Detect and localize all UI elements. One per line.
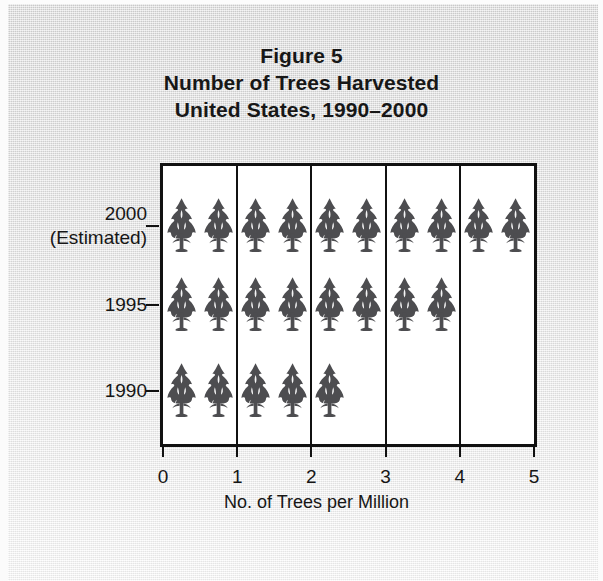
chart-title-line-2: Number of Trees Harvested	[0, 69, 603, 96]
y-axis-category-name: 1990	[0, 379, 147, 403]
x-axis-tick-label-3: 3	[366, 466, 406, 488]
plot-area	[160, 163, 537, 447]
figure-page: Figure 5 Number of Trees Harvested Unite…	[0, 0, 603, 581]
tree-icon	[163, 276, 200, 334]
tree-icon	[460, 197, 497, 255]
x-axis-tick-label-1: 1	[217, 466, 257, 488]
x-axis-tick-5	[533, 446, 535, 457]
y-axis-tick-label-2000: 2000(Estimated)	[0, 202, 147, 250]
x-axis-tick-label-2: 2	[291, 466, 331, 488]
y-axis-category-name: 1995	[0, 293, 147, 317]
y-axis-tick-label-1990: 1990	[0, 379, 147, 403]
x-axis-tick-4	[459, 446, 461, 457]
y-axis-tick-1995	[146, 304, 159, 306]
x-axis-tick-label-4: 4	[440, 466, 480, 488]
tree-icon	[423, 197, 460, 255]
tree-icon	[386, 197, 423, 255]
tree-icon	[163, 362, 200, 420]
tree-icon	[200, 276, 237, 334]
pictogram-row	[163, 195, 534, 257]
tree-icon	[200, 197, 237, 255]
tree-icon	[237, 197, 274, 255]
tree-icon	[163, 197, 200, 255]
scan-margin-top	[0, 0, 603, 4]
x-axis-tick-label-5: 5	[514, 466, 554, 488]
x-axis-tick-0	[162, 446, 164, 457]
x-axis-tick-1	[236, 446, 238, 457]
y-axis-tick-2000	[146, 225, 159, 227]
y-axis-category-name: 2000	[0, 202, 147, 226]
y-axis-tick-label-1995: 1995	[0, 293, 147, 317]
tree-icon	[348, 276, 385, 334]
tree-icon	[497, 197, 534, 255]
pictogram-row	[163, 360, 534, 422]
chart-title: Figure 5 Number of Trees Harvested Unite…	[0, 42, 603, 123]
tree-icon	[274, 276, 311, 334]
tree-icon	[237, 362, 274, 420]
tree-icon	[237, 276, 274, 334]
tree-icon	[423, 276, 460, 334]
tree-icon	[386, 276, 423, 334]
chart-title-line-3: United States, 1990–2000	[0, 96, 603, 123]
tree-icon	[348, 197, 385, 255]
tree-icon	[311, 197, 348, 255]
tree-icon	[274, 197, 311, 255]
y-axis-category-note: (Estimated)	[0, 226, 147, 250]
chart-title-line-1: Figure 5	[0, 42, 603, 69]
pictogram-row	[163, 274, 534, 336]
tree-icon	[311, 362, 348, 420]
x-axis-title: No. of Trees per Million	[0, 492, 603, 513]
tree-icon	[200, 362, 237, 420]
x-axis-tick-3	[385, 446, 387, 457]
x-axis-tick-2	[310, 446, 312, 457]
y-axis-tick-1990	[146, 390, 159, 392]
tree-icon	[311, 276, 348, 334]
tree-icon	[274, 362, 311, 420]
x-axis-tick-label-0: 0	[143, 466, 183, 488]
